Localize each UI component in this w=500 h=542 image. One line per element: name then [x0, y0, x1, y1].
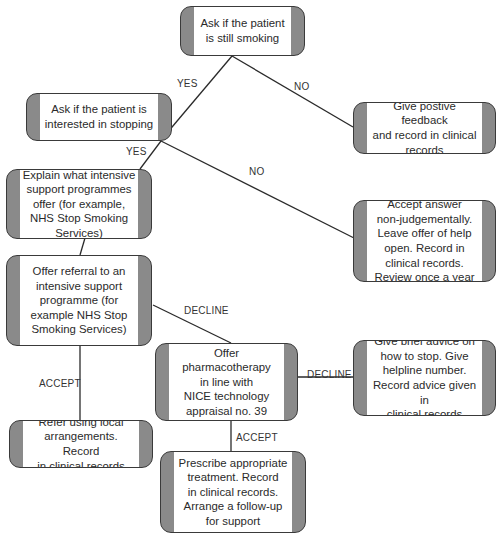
node-text: Offer referral to an intensive support p… — [31, 264, 128, 337]
edge-still-smoking-yes — [167, 56, 232, 133]
node-text: Give postive feedback and record in clin… — [369, 102, 480, 154]
label-referral-accept: ACCEPT — [39, 378, 81, 389]
node-text: Accept answer non-judgementally. Leave o… — [374, 200, 474, 282]
node-ask-still-smoking: Ask if the patient is still smoking — [180, 6, 305, 56]
label-interested-no: NO — [249, 166, 264, 177]
edge-still-smoking-no — [232, 56, 353, 127]
node-offer-referral: Offer referral to an intensive support p… — [6, 255, 152, 346]
node-prescribe-treatment: Prescribe appropriate treatment. Record … — [160, 451, 306, 533]
node-ask-interested: Ask if the patient is interested in stop… — [26, 93, 172, 141]
node-text: Offer pharmacotherapy in line with NICE … — [182, 346, 271, 419]
label-pharmacotherapy-accept: ACCEPT — [236, 432, 278, 443]
edge-interested-no — [161, 141, 356, 239]
node-offer-pharmacotherapy: Offer pharmacotherapy in line with NICE … — [155, 343, 298, 421]
node-accept-answer: Accept answer non-judgementally. Leave o… — [353, 200, 496, 282]
node-explain-programmes: Explain what intensive support programme… — [6, 169, 152, 239]
node-positive-feedback: Give postive feedback and record in clin… — [353, 102, 496, 154]
label-still-smoking-no: NO — [294, 81, 309, 92]
node-text: Explain what intensive support programme… — [23, 169, 136, 239]
node-text: Prescribe appropriate treatment. Record … — [179, 456, 288, 529]
node-text: Ask if the patient is still smoking — [200, 16, 284, 45]
label-still-smoking-yes: YES — [177, 78, 198, 89]
node-refer-local: Refer using local arrangements. Record i… — [9, 420, 153, 468]
label-referral-decline: DECLINE — [184, 305, 229, 316]
label-pharmacotherapy-decline: DECLINE — [307, 369, 352, 380]
node-text: Ask if the patient is interested in stop… — [45, 102, 153, 131]
label-interested-yes: YES — [126, 146, 147, 157]
edge-explain-to-referral — [80, 238, 85, 255]
node-brief-advice: Give brief advice on how to stop. Give h… — [353, 340, 496, 416]
node-text: Refer using local arrangements. Record i… — [25, 420, 137, 468]
node-text: Give brief advice on how to stop. Give h… — [369, 340, 480, 416]
